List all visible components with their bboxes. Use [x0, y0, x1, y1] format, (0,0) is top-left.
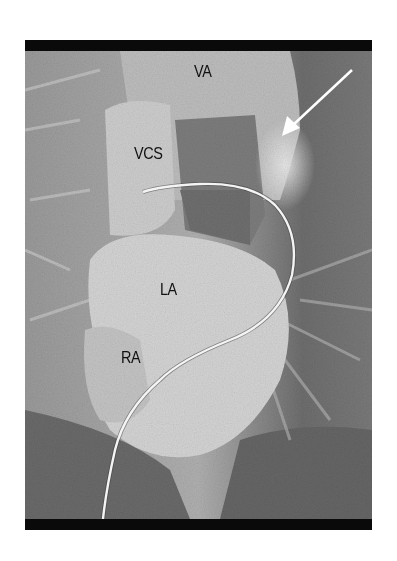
- label-ra: RA: [121, 348, 140, 368]
- label-vcs: VCS: [134, 144, 162, 164]
- label-va: VA: [194, 62, 211, 82]
- angiography-figure: VA VCS LA RA: [25, 40, 372, 530]
- label-la: LA: [160, 280, 177, 300]
- xray-image: [25, 40, 372, 530]
